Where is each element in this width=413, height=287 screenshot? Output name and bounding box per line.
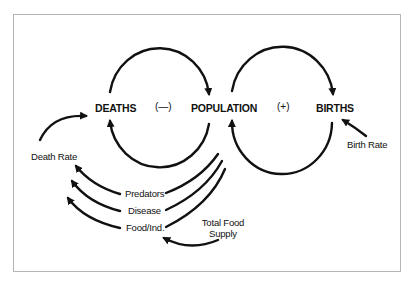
label-total-food-line1: Total Food <box>200 218 246 228</box>
arrow-deaths-to-population <box>110 48 209 94</box>
label-predators: Predators <box>125 189 164 199</box>
loop-sign-negative: (—) <box>155 102 172 112</box>
loop-sign-positive: (+) <box>277 102 290 112</box>
arrow-population-to-deaths <box>110 121 209 167</box>
label-disease: Disease <box>128 206 161 216</box>
arrow-disease-to-deathrate <box>72 181 120 211</box>
label-total-food-line2: Supply <box>200 229 246 239</box>
arrow-predators-to-deathrate <box>76 166 120 194</box>
node-deaths: DEATHS <box>95 103 136 114</box>
label-death-rate: Death Rate <box>31 152 77 162</box>
arc-population-disease <box>166 161 222 210</box>
label-total-food-supply: Total Food Supply <box>200 218 246 238</box>
arrow-foodsupply-to-foodind <box>164 238 218 246</box>
arrow-deathrate-to-deaths <box>40 116 86 140</box>
arrow-population-to-births <box>232 47 333 94</box>
node-births: BIRTHS <box>316 103 354 114</box>
arrow-birthrate-to-births <box>343 120 366 136</box>
label-birth-rate: Birth Rate <box>347 140 387 150</box>
label-food-per-individual: Food/Ind. <box>126 223 164 233</box>
arrow-births-to-population <box>232 121 332 174</box>
arc-population-predators <box>166 154 218 193</box>
node-population: POPULATION <box>191 103 257 114</box>
arrow-food-to-deathrate <box>68 198 120 228</box>
